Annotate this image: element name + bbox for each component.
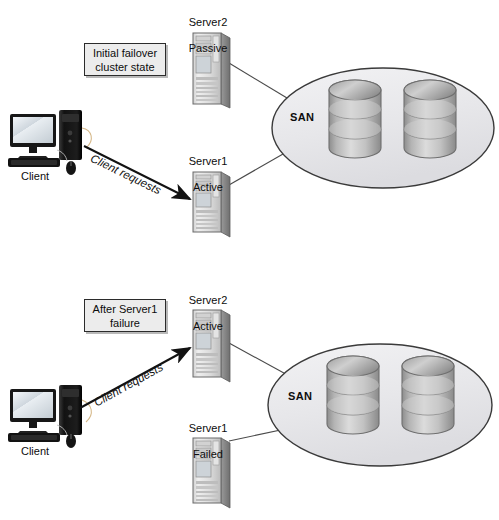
failover-cluster-diagram: Initial failover cluster state Server2 P…	[0, 0, 499, 520]
server-name: Server2	[189, 16, 228, 28]
server-state: Failed	[193, 448, 223, 460]
callout-after-failure: After Server1 failure	[84, 299, 166, 332]
diagram-graphics	[0, 0, 499, 520]
callout-initial-state: Initial failover cluster state	[84, 43, 166, 76]
scene2-san-ellipse	[268, 344, 492, 466]
client-label-2: Client	[5, 445, 65, 457]
server-label-server1-failed: Server1 Failed	[178, 409, 238, 461]
san-label-1: SAN	[290, 111, 314, 123]
server-label-server2-active: Server2 Active	[178, 281, 238, 333]
server-name: Server2	[189, 294, 228, 306]
server-label-server2-passive: Server2 Passive	[178, 3, 238, 55]
scene2-disk-1	[327, 356, 379, 434]
scene1-disk-2	[404, 80, 456, 158]
client-workstation-1[interactable]	[8, 110, 91, 175]
scene1-disk-1	[329, 80, 381, 158]
scene1-san-ellipse	[272, 68, 494, 188]
server-label-server1-active: Server1 Active	[178, 142, 238, 194]
server-state: Passive	[189, 42, 228, 54]
server-name: Server1	[189, 422, 228, 434]
scene2-disk-2	[402, 356, 454, 434]
server-state: Active	[193, 181, 223, 193]
server-name: Server1	[189, 155, 228, 167]
client-workstation-2[interactable]	[8, 385, 91, 448]
san-label-2: SAN	[288, 390, 312, 402]
server-state: Active	[193, 320, 223, 332]
client-label-1: Client	[5, 170, 65, 182]
